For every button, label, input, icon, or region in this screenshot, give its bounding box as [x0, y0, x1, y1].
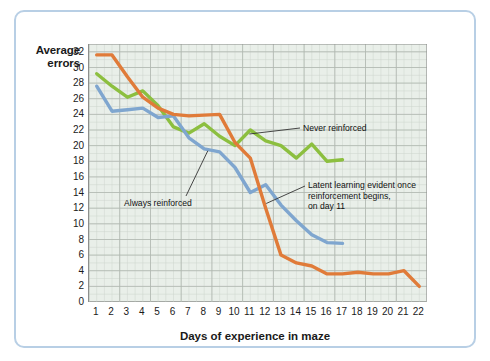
- y-tick-label: 20: [64, 140, 84, 151]
- series-line-2: [97, 55, 420, 287]
- y-tick-label: 6: [64, 249, 84, 260]
- y-tick-label: 28: [64, 77, 84, 88]
- y-tick-label: 16: [64, 171, 84, 182]
- y-tick-label: 18: [64, 155, 84, 166]
- y-tick-label: 10: [64, 218, 84, 229]
- y-tick-label: 32: [64, 46, 84, 57]
- annotation-never-reinforced: Never reinforced: [303, 123, 367, 134]
- x-axis-title: Days of experience in maze: [90, 330, 420, 342]
- y-tick-label: 4: [64, 265, 84, 276]
- y-tick-label: 0: [64, 296, 84, 307]
- y-tick-label: 12: [64, 202, 84, 213]
- y-tick-label: 2: [64, 280, 84, 291]
- y-tick-label: 8: [64, 234, 84, 245]
- data-series-lines: [89, 44, 427, 302]
- plot-area: [88, 44, 426, 302]
- y-tick-label: 22: [64, 124, 84, 135]
- annotation-always-reinforced: Always reinforced: [124, 198, 192, 209]
- figure-root: Average errors 0246810121416182022242628…: [0, 0, 490, 361]
- x-axis-ticks: 12345678910111213141516171819202122: [88, 306, 426, 322]
- annotation-latent-learning: Latent learning evident once reinforceme…: [308, 180, 420, 212]
- series-line-1: [97, 86, 343, 243]
- y-tick-label: 30: [64, 62, 84, 73]
- y-tick-label: 14: [64, 187, 84, 198]
- y-tick-label: 26: [64, 93, 84, 104]
- y-tick-label: 24: [64, 108, 84, 119]
- y-axis-ticks: 02468101214161820222426283032: [60, 44, 84, 302]
- x-tick-label: 22: [408, 306, 428, 317]
